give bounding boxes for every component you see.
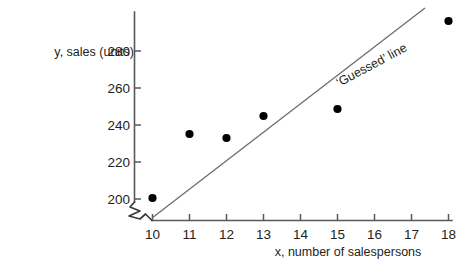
x-tick-label-12: 12	[219, 227, 234, 242]
data-point-x18	[444, 17, 452, 25]
data-point-x11	[185, 130, 193, 138]
data-point-x13	[259, 112, 267, 120]
data-point-x10	[148, 194, 156, 202]
y-tick-label-220: 220	[107, 155, 130, 170]
y-tick-label-240: 240	[107, 118, 130, 133]
scatter-chart: 280 260 240 220 200 10 11 12 13 14 15 16…	[0, 0, 462, 269]
x-tick-label-14: 14	[293, 227, 309, 242]
x-tick-label-13: 13	[256, 227, 271, 242]
x-tick-label-17: 17	[404, 227, 419, 242]
y-tick-label-200: 200	[107, 192, 130, 207]
data-point-x15	[333, 105, 341, 113]
data-point-x12	[222, 134, 230, 142]
x-tick-label-18: 18	[441, 227, 456, 242]
x-tick-label-15: 15	[330, 227, 345, 242]
x-tick-label-11: 11	[182, 227, 196, 242]
y-tick-label-260: 260	[107, 81, 130, 96]
x-tick-label-10: 10	[145, 227, 160, 242]
x-axis-title: x, number of salespersons	[275, 245, 422, 259]
x-tick-label-16: 16	[367, 227, 382, 242]
y-axis-title: y, sales (units)	[54, 45, 134, 59]
chart-canvas: 280 260 240 220 200 10 11 12 13 14 15 16…	[0, 0, 462, 269]
